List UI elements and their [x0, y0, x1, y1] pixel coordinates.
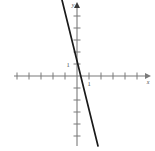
x-unit-label: 1: [87, 80, 90, 87]
coordinate-plane-svg: 1 1 x y: [0, 0, 155, 151]
x-axis-label: x: [146, 79, 150, 85]
y-axis-label: y: [71, 2, 75, 8]
x-axis: [14, 73, 151, 80]
y-axis-arrow-icon: [74, 2, 80, 8]
coordinate-plane-figure: 1 1 x y: [0, 0, 155, 151]
y-unit-label: 1: [66, 61, 69, 68]
